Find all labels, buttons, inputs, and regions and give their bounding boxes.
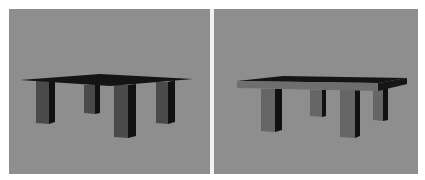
right-table-legs <box>261 86 388 138</box>
left-render-panel <box>9 9 210 174</box>
figure <box>0 0 425 180</box>
left-table-render <box>9 9 210 174</box>
right-table-render <box>214 9 418 174</box>
right-render-panel <box>214 9 418 174</box>
left-table-legs <box>36 80 175 138</box>
